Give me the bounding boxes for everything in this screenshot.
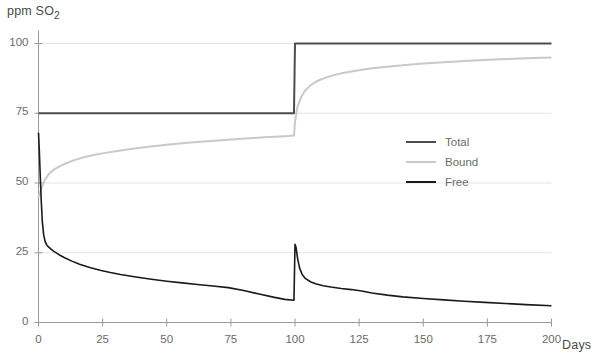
x-tick-label-200: 200 — [532, 333, 572, 345]
legend-swatch-bound-icon — [406, 161, 436, 163]
y-axis-title-text: ppm SO — [7, 4, 54, 18]
legend-swatch-total-icon — [406, 141, 436, 143]
legend-item-free[interactable]: Free — [406, 172, 478, 192]
x-tick-label-125: 125 — [339, 333, 379, 345]
legend-swatch-free-icon — [406, 181, 436, 183]
legend-item-bound[interactable]: Bound — [406, 152, 478, 172]
chart-container: ppm SO2 Days 025507510002550751001251501… — [0, 0, 596, 357]
x-tick-label-175: 175 — [467, 333, 507, 345]
y-tick-label-0: 0 — [3, 315, 29, 327]
y-tick-label-100: 100 — [3, 36, 29, 48]
legend-item-total[interactable]: Total — [406, 132, 478, 152]
x-tick-label-0: 0 — [19, 333, 59, 345]
y-tick-label-50: 50 — [3, 175, 29, 187]
x-tick-label-50: 50 — [147, 333, 187, 345]
x-tick-label-150: 150 — [403, 333, 443, 345]
legend-label-bound: Bound — [445, 156, 478, 168]
y-tick-label-75: 75 — [3, 105, 29, 117]
chart-legend: TotalBoundFree — [406, 132, 478, 192]
legend-label-free: Free — [445, 176, 469, 188]
plot-area — [0, 0, 596, 357]
series-line-total — [39, 44, 552, 114]
y-axis-title-subscript: 2 — [54, 10, 60, 21]
y-tick-label-25: 25 — [3, 245, 29, 257]
legend-label-total: Total — [445, 136, 469, 148]
x-tick-label-25: 25 — [83, 333, 123, 345]
y-axis-title: ppm SO2 — [7, 4, 60, 21]
x-tick-label-100: 100 — [275, 333, 315, 345]
x-tick-label-75: 75 — [211, 333, 251, 345]
